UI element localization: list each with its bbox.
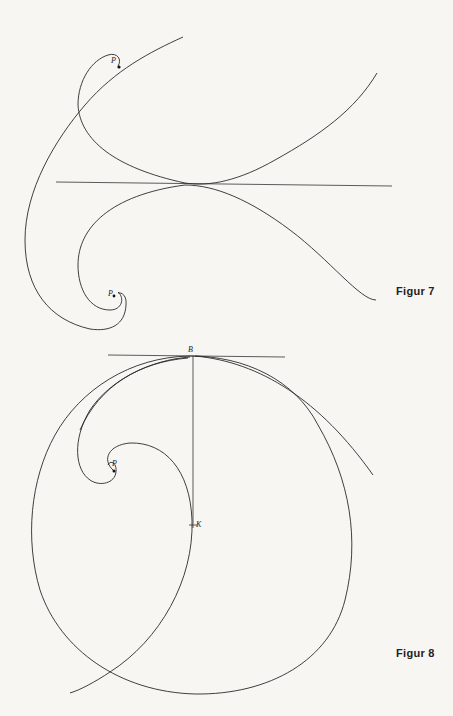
- fig8-upper-spiral-curve: [78, 357, 190, 483]
- fig7-label-p-lower: P: [108, 290, 113, 298]
- fig7-point-p-upper: [117, 65, 120, 68]
- book-page: P P Figur 7 B P K Figur 8: [0, 0, 453, 716]
- figure-7-caption: Figur 7: [396, 285, 435, 297]
- fig8-point-p: [113, 470, 116, 473]
- fig7-lower-spiral-curve: [78, 185, 376, 310]
- fig8-lower-spiral-curve: [70, 443, 192, 693]
- figure-8-caption: Figur 8: [396, 647, 435, 659]
- fig7-upper-spiral-curve: [78, 54, 377, 184]
- fig8-outer-right-curve: [195, 356, 373, 475]
- fig8-label-k: K: [196, 521, 201, 529]
- figures-canvas: [0, 0, 453, 716]
- fig7-point-p-lower: [113, 295, 116, 298]
- fig8-left-outer-curve: [80, 358, 188, 430]
- fig8-label-b: B: [188, 346, 193, 354]
- fig7-label-p-upper: P: [111, 57, 116, 65]
- fig7-tangent-line: [56, 182, 392, 186]
- figure-8-diagram: [32, 355, 373, 694]
- figure-7-diagram: [25, 37, 392, 330]
- fig8-label-p: P: [112, 460, 117, 468]
